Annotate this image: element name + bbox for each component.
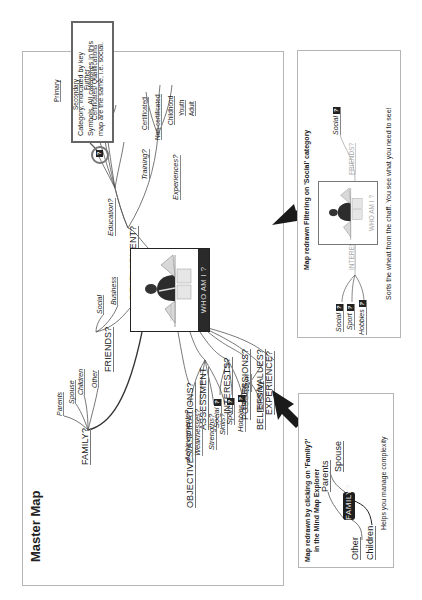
social-panel-interests-sport[interactable]: Sport?	[346, 304, 355, 330]
person-reading-icon	[319, 184, 365, 244]
key-symbol-icon: ?	[359, 300, 366, 307]
social-panel-interests-sport-label: Sport	[346, 313, 353, 330]
social-panel-interests-hobbies[interactable]: Hobbies?	[358, 300, 367, 335]
social-panel-friends-social[interactable]: Social?	[332, 107, 341, 135]
social-panel-center-label: WHO AM I ?	[368, 182, 375, 244]
key-symbol-icon: ?	[336, 304, 343, 311]
diagram-stage: Master Map Category, indicated by key Sy…	[0, 0, 422, 600]
social-panel-interests-hobbies-label: Hobbies	[358, 309, 365, 335]
social-panel-interests-social-label: Social	[335, 313, 342, 332]
social-panel-friends[interactable]: FRIENDS?	[348, 143, 356, 175]
social-panel-friends-social-label: Social	[332, 116, 339, 135]
social-panel-caption: Map redrawn Filtering on 'Social' catego…	[303, 130, 310, 270]
social-panel-note: Sorts the wheat from the chaff. You see …	[385, 108, 392, 301]
key-symbol-icon: ?	[347, 304, 354, 311]
social-panel-center-node[interactable]: WHO AM I ?	[318, 181, 378, 245]
key-symbol-icon: ?	[333, 107, 340, 114]
social-panel-interests-social[interactable]: Social?	[335, 304, 344, 332]
